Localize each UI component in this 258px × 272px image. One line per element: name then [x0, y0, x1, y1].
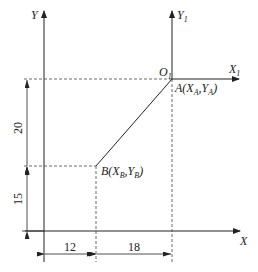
dim-value-15: 15: [11, 193, 25, 205]
dim-value-20: 20: [11, 122, 25, 134]
origin1-label: O1: [159, 65, 172, 81]
segment-ab: [96, 79, 172, 166]
x1-axis-label: X1: [228, 62, 240, 78]
dim-value-18: 18: [128, 240, 140, 254]
x-axis-label: X: [239, 234, 248, 248]
point-a-label: A(XA,YA): [174, 81, 217, 97]
dim-value-12: 12: [64, 240, 76, 254]
point-b-label: B(XB,YB): [101, 164, 143, 180]
coordinate-diagram: Y X Y1 X1 O1 A(XA,YA) B(XB,YB) 20 15 12 …: [0, 0, 258, 272]
y1-axis-label: Y1: [177, 8, 188, 24]
y-axis-label: Y: [31, 8, 39, 22]
